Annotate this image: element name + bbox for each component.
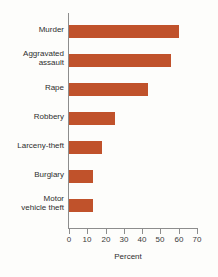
bar-row: Robbery <box>0 104 218 133</box>
bar-label-line: Rape <box>0 83 64 92</box>
bar-row: Larceny-theft <box>0 133 218 162</box>
bar-row: Burglary <box>0 162 218 191</box>
bar <box>69 83 148 96</box>
bar-label-line: Murder <box>0 25 64 34</box>
bar-label-line: vehicle theft <box>0 203 64 212</box>
bar <box>69 54 171 67</box>
bar-row: Rape <box>0 75 218 104</box>
bar-category-label: Larceny-theft <box>0 141 64 150</box>
x-axis-tick-mark <box>124 229 125 234</box>
x-axis-tick-mark <box>69 229 70 234</box>
x-axis-tick-mark <box>87 229 88 234</box>
bar-label-line: Robbery <box>0 112 64 121</box>
bar-category-label: Robbery <box>0 112 64 121</box>
bar <box>69 112 115 125</box>
bar-category-label: Rape <box>0 83 64 92</box>
bar-label-line: Aggravated <box>0 49 64 58</box>
bar-row: Murder <box>0 17 218 46</box>
bar-label-line: assault <box>0 58 64 67</box>
bar-label-line: Larceny-theft <box>0 141 64 150</box>
bar-category-label: Aggravatedassault <box>0 49 64 67</box>
x-axis-tick-mark <box>142 229 143 234</box>
bar-label-line: Burglary <box>0 170 64 179</box>
bar-label-line: Motor <box>0 194 64 203</box>
bar-chart: MurderAggravatedassaultRapeRobberyLarcen… <box>0 0 218 277</box>
x-axis-tick-mark <box>160 229 161 234</box>
bar-row: Motorvehicle theft <box>0 191 218 220</box>
bar-row: Aggravatedassault <box>0 46 218 75</box>
bar <box>69 199 93 212</box>
x-axis-title: Percent <box>0 252 218 261</box>
bar <box>69 170 93 183</box>
x-axis-tick-label: 70 <box>185 235 209 245</box>
bar-category-label: Motorvehicle theft <box>0 194 64 212</box>
x-axis-tick-mark <box>179 229 180 234</box>
bar <box>69 141 102 154</box>
bar-category-label: Murder <box>0 25 64 34</box>
x-axis-tick-mark <box>106 229 107 234</box>
bar-category-label: Burglary <box>0 170 64 179</box>
x-axis-tick-mark <box>197 229 198 234</box>
bar <box>69 25 179 38</box>
